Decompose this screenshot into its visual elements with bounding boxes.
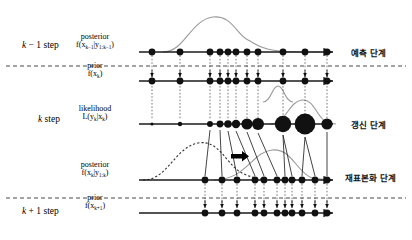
row-label-formula: f(xk|y1:k)	[64, 169, 126, 177]
particle	[274, 210, 281, 217]
phase-label-prediction: 예측 단계	[351, 46, 386, 58]
particle	[324, 49, 331, 56]
particle	[149, 78, 156, 85]
row-label-name: likelihood	[64, 105, 126, 113]
prediction-density-curve	[163, 17, 322, 52]
particle	[150, 122, 153, 125]
particle	[225, 49, 232, 56]
particle	[299, 177, 306, 184]
step-label-k-plus-1: k + 1 step	[22, 206, 59, 216]
particle	[224, 120, 232, 128]
prediction-transition-arrows	[152, 70, 327, 77]
particle	[149, 49, 156, 56]
row-label-formula: f(xk)	[64, 70, 126, 78]
row-label-formula: f(xk+1)	[64, 202, 126, 210]
particle	[295, 114, 316, 135]
particle	[252, 177, 259, 184]
particle	[252, 118, 264, 130]
particle	[289, 210, 296, 217]
particle	[324, 177, 331, 184]
particle	[232, 120, 240, 128]
row-label-prior-kp1: prior f(xk+1)	[64, 194, 126, 211]
particle	[275, 116, 291, 132]
phase-label-update: 갱신 단계	[351, 118, 386, 130]
particle	[312, 177, 319, 184]
weight-transfer-lines	[205, 130, 327, 176]
row-label-formula: L(yk|xk)	[64, 113, 126, 121]
resample-guides	[205, 184, 327, 203]
row-label-posterior-k: posterior f(xk|y1:k)	[64, 161, 126, 178]
phase-label-resampling: 재표본화 단계	[345, 171, 396, 183]
particle	[312, 210, 319, 217]
resample-transition-arrows	[205, 200, 327, 208]
figure-canvas: k − 1 step k step k + 1 step posterior f…	[0, 0, 412, 240]
particle	[244, 49, 251, 56]
particle	[261, 210, 268, 217]
particle	[177, 78, 184, 85]
particle	[233, 49, 240, 56]
particle	[217, 49, 224, 56]
particle	[177, 49, 184, 56]
particle	[282, 177, 289, 184]
propagation-guides	[152, 52, 327, 119]
particle	[217, 78, 224, 85]
row-label-prior-k: prior f(xk)	[64, 62, 126, 79]
row-label-likelihood-k: likelihood L(yk|xk)	[64, 105, 126, 122]
particle	[324, 78, 331, 85]
prior-density-curve	[263, 86, 293, 102]
particle	[280, 49, 287, 56]
particle	[225, 78, 232, 85]
particle	[219, 177, 226, 184]
particle	[252, 210, 259, 217]
step-label-k-minus-1: k − 1 step	[22, 40, 59, 50]
row-label-name: prior	[64, 194, 126, 202]
particle	[207, 49, 214, 56]
particle	[289, 177, 296, 184]
particle	[219, 210, 226, 217]
particle	[324, 210, 331, 217]
particle	[261, 177, 268, 184]
particle	[241, 118, 252, 129]
particle	[302, 49, 309, 56]
particle	[234, 210, 241, 217]
particle	[244, 78, 251, 85]
particle	[202, 177, 209, 184]
particle	[207, 121, 213, 127]
row-label-posterior-km1: posterior f(xk−1|y1:k−1)	[64, 33, 126, 50]
particle	[255, 49, 262, 56]
particle	[217, 121, 224, 128]
particle	[302, 78, 309, 85]
particle	[321, 118, 332, 129]
particle	[233, 78, 240, 85]
particle	[255, 78, 262, 85]
particle	[274, 177, 281, 184]
particle	[234, 177, 241, 184]
particle	[280, 78, 287, 85]
particle	[207, 78, 214, 85]
row-label-formula: f(xk−1|y1:k−1)	[64, 41, 126, 49]
particle	[178, 122, 182, 126]
step-label-k: k step	[38, 114, 60, 124]
particle	[282, 210, 289, 217]
particle	[202, 210, 209, 217]
particle	[299, 210, 306, 217]
